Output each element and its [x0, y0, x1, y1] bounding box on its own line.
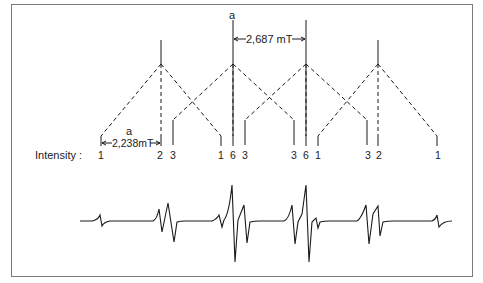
coupling-symbol-small: a — [126, 125, 132, 137]
splitting-diagram — [0, 0, 483, 283]
intensity-value: 1 — [435, 150, 441, 161]
intensity-value: 3 — [365, 150, 371, 161]
intensity-value: 3 — [170, 150, 176, 161]
coupling-value-small: 2,238mT — [112, 137, 153, 149]
intensity-value: 6 — [230, 150, 236, 161]
intensity-value: 3 — [291, 150, 297, 161]
epr-spectrum-trace — [80, 185, 452, 262]
intensity-value: 1 — [98, 150, 104, 161]
intensity-value: 6 — [303, 150, 309, 161]
intensity-value: 3 — [242, 150, 248, 161]
coupling-symbol-large: a — [229, 9, 235, 21]
intensity-value: 2 — [157, 150, 163, 161]
intensity-value: 2 — [376, 150, 382, 161]
intensity-value: 1 — [315, 150, 321, 161]
intensity-label: Intensity : — [35, 149, 82, 161]
coupling-value-large: 2,687 mT — [246, 33, 292, 45]
intensity-value: 1 — [218, 150, 224, 161]
